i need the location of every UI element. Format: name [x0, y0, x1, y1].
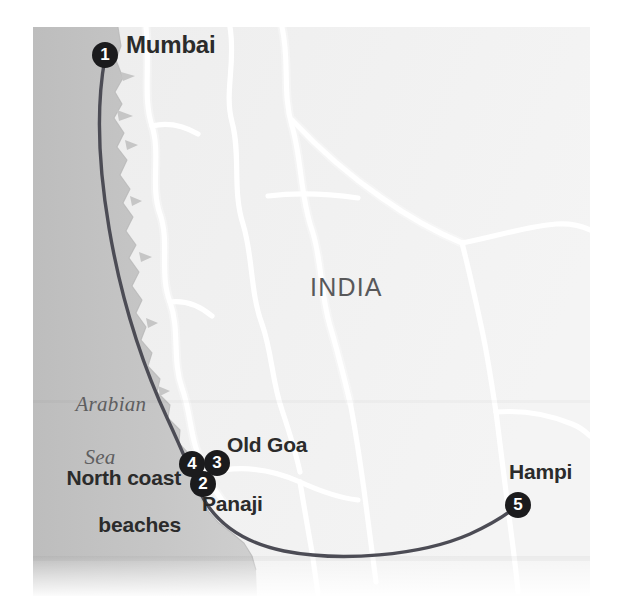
label-mumbai: Mumbai: [126, 32, 215, 59]
map-marker-1[interactable]: 1: [92, 42, 118, 68]
route-map: Mumbai Old Goa Panaji Hampi North coast …: [0, 0, 618, 615]
map-marker-3[interactable]: 3: [204, 450, 230, 476]
label-arabian-sea: Arabian Sea: [46, 365, 154, 523]
map-marker-5[interactable]: 5: [505, 492, 531, 518]
label-panaji: Panaji: [202, 492, 263, 516]
map-marker-4[interactable]: 4: [179, 451, 205, 477]
label-arabian-sea-line2: Sea: [46, 444, 154, 470]
label-arabian-sea-line1: Arabian: [75, 392, 146, 416]
label-hampi: Hampi: [509, 460, 572, 484]
label-old-goa: Old Goa: [227, 433, 307, 457]
label-country-india: INDIA: [310, 273, 383, 301]
